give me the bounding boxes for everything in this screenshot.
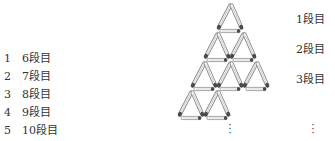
- figure-ellipsis: ···: [227, 124, 233, 136]
- row-label-2: 2段目: [296, 40, 325, 56]
- row-label-1: 1段目: [296, 10, 325, 26]
- matchstick-triangle-figure: [0, 0, 335, 141]
- label-ellipsis: ···: [310, 124, 316, 136]
- row-label-3: 3段目: [296, 70, 325, 86]
